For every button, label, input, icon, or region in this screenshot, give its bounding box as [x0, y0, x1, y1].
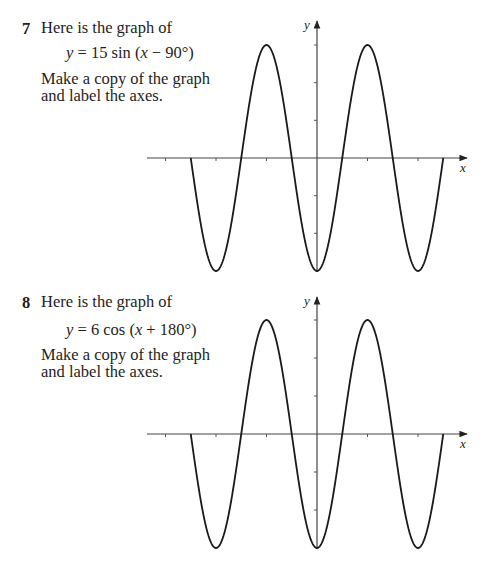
graph-cosine: y x: [147, 293, 467, 549]
y-axis-label: y: [302, 293, 310, 308]
axis-ticks: [166, 320, 419, 510]
graph-sine: y x: [147, 17, 467, 272]
axis-ticks: [166, 45, 419, 233]
y-axis-label: y: [302, 17, 310, 32]
x-axis-label: x: [459, 436, 466, 451]
graphs-canvas: y x y x: [0, 0, 493, 562]
x-axis-label: x: [459, 160, 466, 175]
